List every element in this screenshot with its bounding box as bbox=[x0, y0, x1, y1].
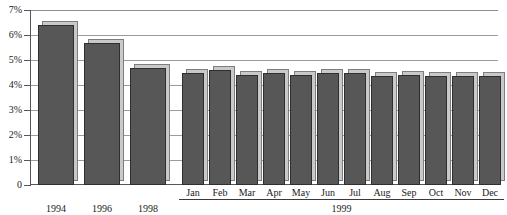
y-axis-tick-label: 6% bbox=[9, 30, 22, 40]
bar-body bbox=[398, 75, 420, 185]
y-axis-tick-label: 3% bbox=[9, 105, 22, 115]
bar bbox=[263, 73, 285, 186]
bar-body bbox=[130, 68, 166, 186]
bar bbox=[290, 75, 312, 185]
y-axis-tick-label: 7% bbox=[9, 5, 22, 15]
bar bbox=[425, 76, 447, 185]
y-axis-tick-label: 2% bbox=[9, 130, 22, 140]
bar bbox=[84, 43, 120, 186]
bar-body bbox=[371, 76, 393, 185]
bar-body bbox=[236, 75, 258, 185]
bar-body bbox=[317, 73, 339, 186]
bar-body bbox=[344, 73, 366, 186]
bar-body bbox=[452, 76, 474, 185]
x-axis-group-rule bbox=[179, 199, 504, 200]
x-axis-year-label: 1994 bbox=[32, 203, 80, 214]
bar-body bbox=[38, 25, 74, 185]
bar-body bbox=[479, 76, 501, 185]
bar-body bbox=[182, 73, 204, 186]
bar bbox=[344, 73, 366, 186]
y-axis-tick bbox=[24, 185, 31, 186]
bar bbox=[209, 70, 231, 185]
bar bbox=[452, 76, 474, 185]
bar bbox=[182, 73, 204, 186]
bar bbox=[479, 76, 501, 185]
x-axis-year-label: 1996 bbox=[78, 203, 126, 214]
bar bbox=[371, 76, 393, 185]
x-axis-month-label: Dec bbox=[473, 187, 507, 198]
y-axis-tick-label: 0 bbox=[17, 180, 22, 190]
y-axis-tick-label: 1% bbox=[9, 155, 22, 165]
x-axis-year-label: 1998 bbox=[124, 203, 172, 214]
bar bbox=[130, 68, 166, 186]
bar bbox=[38, 25, 74, 185]
x-axis-group-label: 1999 bbox=[179, 203, 504, 214]
bar bbox=[317, 73, 339, 186]
bar-body bbox=[263, 73, 285, 186]
y-axis-tick-label: 5% bbox=[9, 55, 22, 65]
y-axis-tick-label: 4% bbox=[9, 80, 22, 90]
bar-body bbox=[209, 70, 231, 185]
bar bbox=[398, 75, 420, 185]
bar-series bbox=[31, 10, 498, 185]
bar-body bbox=[290, 75, 312, 185]
bar bbox=[236, 75, 258, 185]
bar-body bbox=[84, 43, 120, 186]
bar-body bbox=[425, 76, 447, 185]
